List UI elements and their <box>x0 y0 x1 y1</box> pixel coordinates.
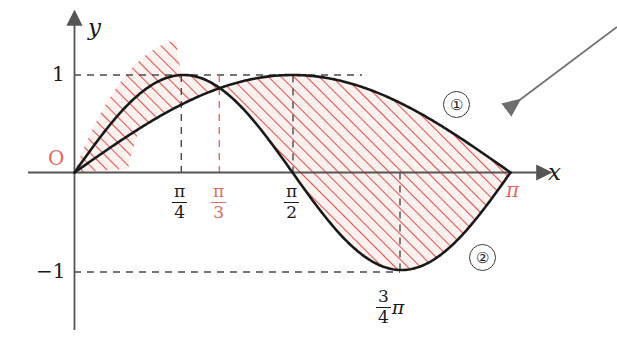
x-tick-pi-over-4-numerator: π <box>172 183 187 201</box>
pointer-arrow <box>509 27 617 108</box>
math-figure <box>0 0 617 363</box>
x-tick-pi: π <box>506 180 519 200</box>
y-tick-label-minus-1: −1 <box>36 261 65 281</box>
x-tick-three-pi-over-4-suffix: π <box>392 298 405 317</box>
region-two-label: ② <box>469 244 496 271</box>
origin-label: O <box>48 148 64 168</box>
x-tick-pi-over-2-denominator: 2 <box>284 204 299 222</box>
x-tick-three-pi-over-4-numerator: 3 <box>376 288 391 306</box>
x-tick-pi-over-2-numerator: π <box>284 183 299 201</box>
x-tick-pi-over-3-numerator: π <box>211 183 226 201</box>
x-tick-three-pi-over-4: 3 4 π <box>376 288 404 327</box>
region-one-label: ① <box>443 91 470 118</box>
y-tick-label-1: 1 <box>52 64 65 84</box>
x-tick-three-pi-over-4-denominator: 4 <box>376 309 391 327</box>
x-axis-label: x <box>548 161 561 184</box>
x-tick-pi-over-3: π 3 <box>211 183 226 222</box>
x-tick-pi-over-3-denominator: 3 <box>211 204 226 222</box>
y-axis-label: y <box>88 16 101 39</box>
x-tick-pi-over-2: π 2 <box>284 183 299 222</box>
x-tick-pi-over-4: π 4 <box>172 183 187 222</box>
x-tick-pi-over-4-denominator: 4 <box>172 204 187 222</box>
